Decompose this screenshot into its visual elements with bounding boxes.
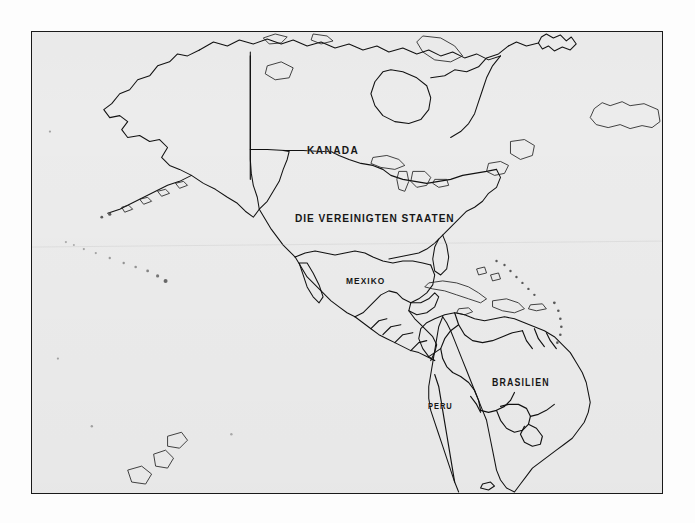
coastline-falkland [481, 482, 495, 490]
coastline-lake-huron-erie [411, 171, 431, 187]
scan-artifact-line [32, 241, 662, 247]
coastline-nova-scotia [487, 161, 509, 175]
coastline-bahamas-1 [477, 267, 487, 275]
map-label-kanada: KANADA [307, 144, 359, 156]
aleutian-islands [100, 181, 187, 218]
coastline-iceland [590, 102, 660, 129]
border-usa-mexico [295, 251, 431, 265]
coastline-arctic-canada [199, 39, 500, 60]
coastline-newfoundland [510, 140, 534, 160]
coastline-victoria-island [265, 62, 293, 80]
coastline-greenland-detail [508, 42, 538, 46]
coastline-central-america [355, 317, 435, 361]
coastline-florida [433, 235, 449, 275]
map-figure: KANADA DIE VEREINIGTEN STAATEN MEXIKO BR… [0, 0, 695, 523]
coastline-hispaniola [493, 299, 525, 313]
border-argentina-brazil [530, 404, 554, 416]
coastline-alaska [104, 50, 260, 217]
coastline-gulf-of-mexico [355, 265, 435, 317]
border-nicaragua [395, 333, 413, 343]
border-venezuela-colombia [455, 313, 523, 343]
border-costarica-panama [411, 341, 427, 351]
coastline-atlantic-north [431, 46, 509, 78]
border-chile-argentina [435, 375, 455, 483]
coastline-baffin-island [417, 36, 463, 62]
border-guatemala [371, 319, 387, 329]
border-colombia-brazil [441, 325, 461, 377]
coastline-usa-west-lower [259, 209, 295, 257]
coastline-bahamas-2 [491, 273, 501, 281]
coastline-alaska-aleutian-chain [108, 175, 192, 213]
map-label-peru: PERU [428, 401, 453, 411]
border-paraguay [497, 404, 531, 432]
map-label-mexiko: MEXIKO [346, 275, 385, 286]
coastline-lake-michigan [397, 171, 409, 191]
coastline-pacific-island-sw3 [168, 432, 188, 448]
coastline-central-america-caribbean [409, 311, 437, 357]
coastline-greenland [538, 34, 576, 51]
map-label-usa: DIE VEREINIGTEN STAATEN [295, 212, 455, 224]
border-guyanas-2 [534, 329, 544, 347]
coastline-mexico-west [295, 257, 355, 317]
border-guyanas-1 [522, 331, 532, 349]
border-uruguay [520, 424, 542, 446]
map-graphic [32, 32, 662, 493]
coastline-pacific-island-sw2 [154, 450, 174, 468]
coastline-puerto-rico [528, 304, 546, 311]
hawaiian-islands [65, 241, 168, 283]
coastline-cuba [425, 281, 487, 303]
lesser-antilles-islands [495, 260, 562, 344]
border-bolivia [481, 392, 515, 412]
border-usa-canada [250, 149, 496, 183]
border-honduras [383, 325, 401, 335]
map-label-brasilien: BRASILIEN [492, 377, 550, 388]
pacific-islets [49, 130, 233, 435]
map-frame: KANADA DIE VEREINIGTEN STAATEN MEXIKO BR… [31, 31, 663, 494]
coastline-yucatan [409, 293, 439, 315]
coastline-usa-west [259, 150, 289, 209]
coastline-hudson-bay [371, 70, 431, 124]
coastline-lake-superior [371, 155, 405, 169]
coastline-pacific-island-sw [128, 466, 152, 484]
